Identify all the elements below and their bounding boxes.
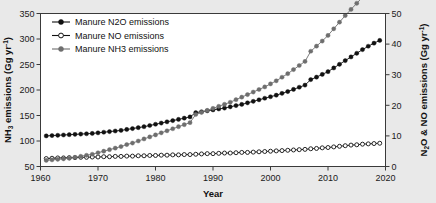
data-point bbox=[67, 133, 71, 137]
data-point bbox=[148, 123, 152, 127]
data-point bbox=[67, 156, 71, 160]
data-point bbox=[217, 104, 221, 108]
data-point bbox=[372, 142, 376, 146]
right-tick-label: 20 bbox=[392, 101, 402, 111]
data-point bbox=[199, 110, 203, 114]
right-tick-label: 0 bbox=[392, 162, 397, 172]
data-point bbox=[182, 153, 186, 157]
data-point bbox=[360, 48, 364, 52]
data-point bbox=[107, 130, 111, 134]
data-point bbox=[280, 149, 284, 153]
data-point bbox=[337, 62, 341, 66]
left-tick-label: 200 bbox=[19, 85, 34, 95]
data-point bbox=[222, 102, 226, 106]
data-point bbox=[130, 126, 134, 130]
data-point bbox=[268, 95, 272, 99]
data-point bbox=[188, 153, 192, 157]
x-tick-label: 1960 bbox=[30, 173, 50, 183]
data-point bbox=[303, 147, 307, 151]
data-point bbox=[269, 149, 273, 153]
right-tick-label: 10 bbox=[392, 131, 402, 141]
data-point bbox=[228, 151, 232, 155]
data-point bbox=[73, 132, 77, 136]
data-point bbox=[142, 137, 146, 141]
data-point bbox=[90, 131, 94, 135]
right-tick-label: 50 bbox=[392, 9, 402, 19]
data-point bbox=[44, 158, 48, 162]
data-point bbox=[240, 95, 244, 99]
data-point bbox=[84, 132, 88, 136]
data-point bbox=[349, 55, 353, 59]
data-point bbox=[349, 7, 353, 11]
data-point bbox=[131, 154, 135, 158]
right-tick-label: 30 bbox=[392, 70, 402, 80]
data-point bbox=[56, 157, 60, 161]
data-point bbox=[61, 133, 65, 137]
data-point bbox=[217, 151, 221, 155]
data-point bbox=[136, 126, 140, 130]
data-point bbox=[361, 142, 365, 146]
data-point bbox=[286, 72, 290, 76]
data-point bbox=[125, 142, 129, 146]
data-point bbox=[90, 152, 94, 156]
data-point bbox=[211, 106, 215, 110]
data-point bbox=[125, 127, 129, 131]
data-point bbox=[108, 155, 112, 159]
data-point bbox=[154, 153, 158, 157]
data-point bbox=[84, 153, 88, 157]
data-point bbox=[286, 148, 290, 152]
data-point bbox=[234, 104, 238, 108]
data-point bbox=[320, 72, 324, 76]
data-point bbox=[79, 154, 83, 158]
data-point bbox=[240, 102, 244, 106]
data-point bbox=[355, 143, 359, 147]
data-point bbox=[136, 139, 140, 143]
legend-marker-filled-circle-icon bbox=[59, 47, 64, 52]
data-point bbox=[177, 153, 181, 157]
data-point bbox=[274, 149, 278, 153]
data-point bbox=[148, 153, 152, 157]
data-point bbox=[280, 75, 284, 79]
data-point bbox=[366, 44, 370, 48]
x-tick-label: 1970 bbox=[88, 173, 108, 183]
axis-title-text: N2O & NO emissions (Gg yr-1) bbox=[418, 24, 430, 157]
data-point bbox=[205, 108, 209, 112]
emissions-line-chart: 50100150200250300350 01020304050 1960197… bbox=[0, 0, 436, 203]
left-tick-label: 250 bbox=[19, 60, 34, 70]
data-point bbox=[257, 87, 261, 91]
data-point bbox=[159, 131, 163, 135]
data-point bbox=[125, 154, 129, 158]
data-point bbox=[142, 125, 146, 129]
data-point bbox=[355, 1, 359, 5]
data-point bbox=[337, 20, 341, 24]
data-point bbox=[251, 150, 255, 154]
data-point bbox=[96, 155, 100, 159]
data-point bbox=[251, 99, 255, 103]
left-tick-label: 150 bbox=[19, 111, 34, 121]
data-point bbox=[349, 143, 353, 147]
right-tick-label: 40 bbox=[392, 39, 402, 49]
data-point bbox=[113, 154, 117, 158]
data-point bbox=[245, 101, 249, 105]
data-point bbox=[274, 93, 278, 97]
data-point bbox=[366, 142, 370, 146]
data-point bbox=[378, 141, 382, 145]
data-point bbox=[332, 145, 336, 149]
data-point bbox=[148, 135, 152, 139]
data-point bbox=[343, 144, 347, 148]
x-tick-label: 2010 bbox=[318, 173, 338, 183]
data-point bbox=[73, 155, 77, 159]
data-point bbox=[142, 154, 146, 158]
x-tick-label: 2000 bbox=[260, 173, 280, 183]
data-point bbox=[205, 152, 209, 156]
data-point bbox=[297, 148, 301, 152]
data-point bbox=[332, 27, 336, 31]
data-point bbox=[309, 147, 313, 151]
data-point bbox=[332, 66, 336, 70]
x-tick-label: 1990 bbox=[203, 173, 223, 183]
data-point bbox=[263, 150, 267, 154]
data-point bbox=[188, 121, 192, 125]
x-tick-label: 2020 bbox=[375, 173, 395, 183]
data-point bbox=[165, 120, 169, 124]
data-point bbox=[159, 121, 163, 125]
